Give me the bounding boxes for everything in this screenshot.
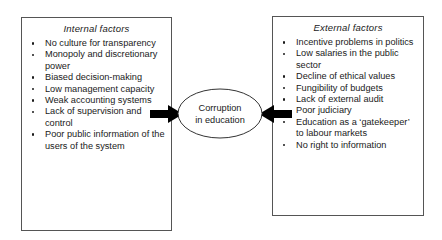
external-factors-box: External factors Incentive problems in p… [272,16,424,216]
list-item-label: Monopoly and discretionary power [45,49,157,70]
list-item: Lack of external audit [279,94,419,105]
arrow-external-to-center [258,104,292,124]
list-item: Poor public information of the users of … [28,129,167,152]
bullet-icon [283,41,285,43]
internal-factors-list: No culture for transparency Monopoly and… [22,38,171,152]
list-item-label: Poor judiciary [296,105,352,115]
center-label-line1: Corruption [199,102,242,114]
list-item-label: No culture for transparency [45,38,156,48]
list-item: Biased decision-making [28,72,167,83]
list-item: Fungibility of budgets [279,83,419,94]
bullet-icon [32,99,34,101]
bullet-icon [283,98,285,100]
list-item: No right to information [279,140,419,151]
bullet-icon [32,76,34,78]
list-item: Low management capacity [28,84,167,95]
list-item-label: Low management capacity [45,84,154,94]
bullet-icon [283,144,285,146]
bullet-icon [32,111,34,113]
bullet-icon [283,75,285,77]
list-item: Poor judiciary [279,105,419,116]
list-item: Weak accounting systems [28,95,167,106]
list-item-label: No right to information [296,140,386,150]
bullet-icon [283,53,285,55]
bullet-icon [32,88,34,90]
center-label: Corruption in education [177,88,263,139]
bullet-icon [283,87,285,89]
list-item: Education as a ‘gatekeeper’ to labour ma… [279,117,419,140]
list-item-label: Poor public information of the users of … [45,129,165,150]
list-item-label: Decline of ethical values [296,71,395,81]
list-item-label: Lack of supervision and control [45,106,142,127]
list-item: Incentive problems in politics [279,37,419,48]
list-item: Low salaries in the public sector [279,48,419,71]
list-item-label: Low salaries in the public sector [296,48,399,69]
list-item: Lack of supervision and control [28,106,167,129]
list-item-label: Lack of external audit [296,94,383,104]
external-factors-title: External factors [273,22,423,34]
diagram-canvas: Internal factors No culture for transpar… [0,0,442,240]
bullet-icon [32,133,34,135]
list-item: Monopoly and discretionary power [28,49,167,72]
bullet-icon [32,42,34,44]
bullet-icon [32,54,34,56]
list-item: Decline of ethical values [279,71,419,82]
external-factors-list: Incentive problems in politics Low salar… [273,37,423,151]
internal-factors-box: Internal factors No culture for transpar… [21,17,172,231]
list-item-label: Fungibility of budgets [296,83,383,93]
internal-factors-title: Internal factors [22,23,171,35]
list-item-label: Weak accounting systems [45,95,152,105]
list-item-label: Education as a ‘gatekeeper’ to labour ma… [296,117,409,138]
center-label-line2: in education [195,114,245,126]
corruption-in-education-node: Corruption in education [177,88,263,139]
list-item: No culture for transparency [28,38,167,49]
list-item-label: Biased decision-making [45,72,142,82]
list-item-label: Incentive problems in politics [296,37,413,47]
